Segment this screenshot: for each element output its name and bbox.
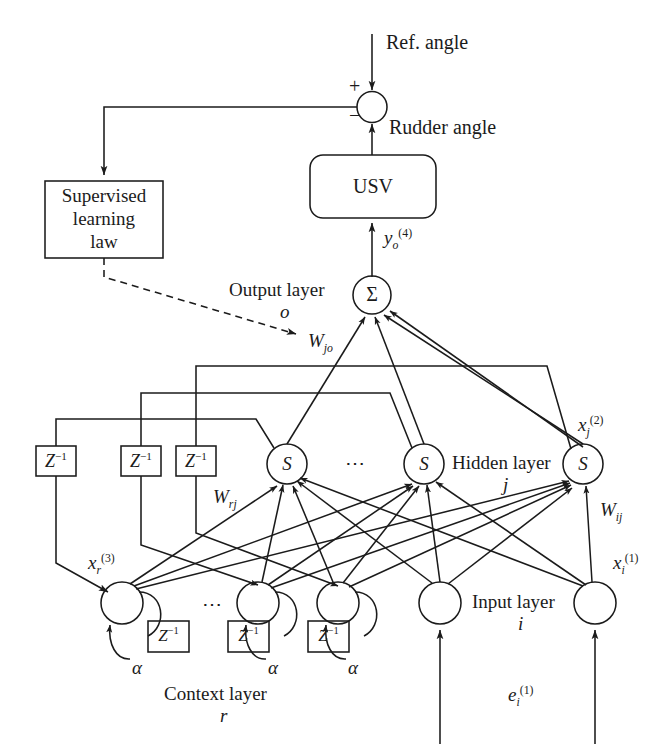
delay-3-exp: −1 xyxy=(195,450,207,462)
output-layer-label: Output layer xyxy=(229,280,325,301)
supervised-line-3: law xyxy=(45,232,163,253)
input-node-1 xyxy=(419,582,461,624)
delay-2-exp: −1 xyxy=(140,450,152,462)
summing-junction xyxy=(357,92,387,123)
ctx-delay-1-exp: −1 xyxy=(168,625,179,636)
delay-block-top-3-label: Z−1 xyxy=(176,450,216,471)
delay-block-top-1-label: Z−1 xyxy=(36,450,76,471)
hidden-layer-label: Hidden layer xyxy=(452,453,551,474)
rudder-angle-label: Rudder angle xyxy=(389,117,496,139)
signal-y-o-4-sup: (4) xyxy=(398,227,412,240)
input-layer-index: i xyxy=(518,614,523,635)
signal-e-i-1-sub: i xyxy=(516,696,519,709)
signal-x-r-3-sup: (3) xyxy=(101,552,115,565)
signal-x-i-1-sup: (1) xyxy=(625,552,639,565)
signal-y-o-4: yo(4) xyxy=(384,228,412,253)
weight-w-rj-base: W xyxy=(213,486,229,507)
delay-2-base: Z xyxy=(130,451,140,471)
signal-x-j-2-sup: (2) xyxy=(590,414,604,427)
signal-y-o-4-sub: o xyxy=(392,239,398,252)
input-layer-label: Input layer xyxy=(472,592,555,613)
ref-angle-label: Ref. angle xyxy=(386,32,468,54)
hidden-layer-ellipsis: ⋯ xyxy=(330,453,380,475)
delay-block-top-2-label: Z−1 xyxy=(121,450,161,471)
supervised-line-2: learning xyxy=(45,209,163,230)
ctx-delay-2-base: Z xyxy=(238,626,247,645)
input-node-2 xyxy=(574,582,616,624)
weight-w-rj-sub: rj xyxy=(229,498,237,511)
recurrent-feedback-bus xyxy=(56,366,571,449)
ctx-delay-1-base: Z xyxy=(158,626,167,645)
delay-3-base: Z xyxy=(185,451,195,471)
ctx-delay-3-base: Z xyxy=(318,626,327,645)
weight-w-ij: Wij xyxy=(600,500,622,525)
signal-e-i-1: ei(1) xyxy=(508,685,533,710)
weight-w-rj: Wrj xyxy=(213,487,237,512)
weight-w-ij-sub: ij xyxy=(616,511,623,524)
alpha-label-1: α xyxy=(126,658,148,679)
weight-w-ij-base: W xyxy=(600,499,616,520)
delay-1-exp: −1 xyxy=(55,450,67,462)
minus-sign-label: − xyxy=(349,105,360,127)
supervised-line-1: Supervised xyxy=(45,186,163,207)
alpha-label-2: α xyxy=(262,658,284,679)
hidden-node-3-glyph: S xyxy=(564,454,602,475)
context-delay-block-1-label: Z−1 xyxy=(148,625,189,645)
signal-x-r-3: xr(3) xyxy=(88,553,115,578)
delay-1-base: Z xyxy=(45,451,55,471)
hidden-node-2-glyph: S xyxy=(405,454,443,475)
diagram-canvas: Ref. angle + − Rudder angle USV Supervis… xyxy=(0,0,667,744)
ctx-delay-2-exp: −1 xyxy=(248,625,259,636)
error-signal-path xyxy=(104,107,357,175)
signal-x-i-1: xi(1) xyxy=(613,553,638,578)
context-node-3 xyxy=(317,582,359,624)
weight-w-jo: Wjo xyxy=(308,331,333,356)
ctx-delay-3-exp: −1 xyxy=(328,625,339,636)
hidden-node-1-glyph: S xyxy=(268,454,306,475)
weight-w-jo-sub: jo xyxy=(324,342,333,355)
context-delay-block-3-label: Z−1 xyxy=(308,625,349,645)
signal-e-i-1-sup: (1) xyxy=(520,684,534,697)
signal-x-j-2: xj(2) xyxy=(578,415,603,440)
context-node-2 xyxy=(237,582,279,624)
context-layer-index: r xyxy=(220,706,227,727)
output-layer-index: o xyxy=(280,302,290,323)
signal-x-i-1-sub: i xyxy=(621,564,624,577)
context-delay-block-2-label: Z−1 xyxy=(228,625,269,645)
signal-x-j-2-sub: j xyxy=(586,426,589,439)
weight-w-jo-base: W xyxy=(308,330,324,351)
sigma-glyph: Σ xyxy=(353,284,391,306)
usv-label: USV xyxy=(310,176,436,198)
signal-x-r-3-sub: r xyxy=(96,564,101,577)
alpha-label-3: α xyxy=(342,658,364,679)
plus-sign-label: + xyxy=(349,76,360,98)
context-layer-ellipsis: ⋯ xyxy=(190,594,234,616)
context-layer-label: Context layer xyxy=(164,684,267,705)
hidden-layer-index: j xyxy=(503,475,508,496)
